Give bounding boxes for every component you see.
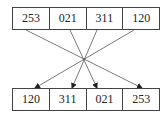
output-cell: 021	[87, 89, 124, 110]
output-cell: 120	[13, 89, 50, 110]
output-cell: 311	[50, 89, 87, 110]
arrow-line	[35, 30, 134, 88]
output-cell: 253	[123, 89, 159, 110]
output-array: 120 311 021 253	[12, 88, 160, 111]
